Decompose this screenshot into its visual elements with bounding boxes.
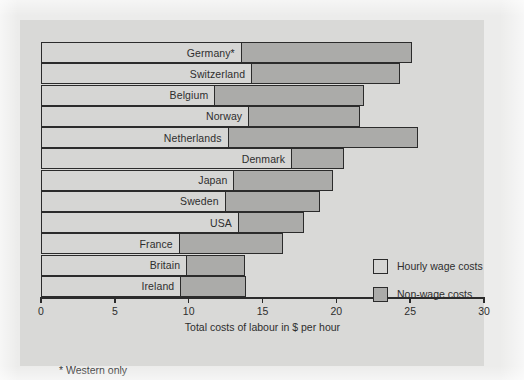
bar-segment-hourly-wage-costs: France	[41, 233, 180, 254]
x-axis-tick-label: 5	[112, 305, 118, 317]
plot-area: Germany*SwitzerlandBelgiumNorwayNetherla…	[41, 42, 484, 297]
bar-segment-non-wage-costs	[248, 106, 360, 127]
x-axis-tick	[483, 297, 485, 303]
chart-panel: Germany*SwitzerlandBelgiumNorwayNetherla…	[20, 20, 484, 366]
bar-segment-hourly-wage-costs: Denmark	[41, 148, 292, 169]
bar-row: Norway	[41, 106, 360, 127]
bar-category-label: Britain	[150, 259, 180, 271]
bar-segment-non-wage-costs	[290, 148, 343, 169]
x-axis-tick	[262, 297, 264, 303]
bar-category-label: Denmark	[242, 153, 285, 165]
bar-category-label: Sweden	[180, 195, 219, 207]
bar-segment-non-wage-costs	[178, 233, 283, 254]
x-axis-tick-label: 20	[330, 305, 342, 317]
bar-segment-non-wage-costs	[237, 212, 304, 233]
bar-segment-hourly-wage-costs: Netherlands	[41, 127, 229, 148]
bar-segment-hourly-wage-costs: Germany*	[41, 42, 242, 63]
bar-row: Germany*	[41, 42, 412, 63]
bar-row: Japan	[41, 170, 333, 191]
bar-row: Sweden	[41, 191, 320, 212]
chart-legend: Hourly wage costs Non-wage costs	[373, 255, 483, 311]
x-axis-tick	[336, 297, 338, 303]
bar-segment-hourly-wage-costs: Japan	[41, 170, 234, 191]
bar-row: France	[41, 233, 283, 254]
bar-segment-non-wage-costs	[251, 63, 400, 84]
bar-row: Denmark	[41, 148, 344, 169]
bar-segment-non-wage-costs	[224, 191, 320, 212]
bar-category-label: Belgium	[170, 89, 209, 101]
bar-segment-hourly-wage-costs: USA	[41, 212, 239, 233]
bar-segment-hourly-wage-costs: Sweden	[41, 191, 226, 212]
bar-segment-hourly-wage-costs: Switzerland	[41, 63, 252, 84]
bar-segment-non-wage-costs	[186, 255, 245, 276]
x-axis-tick	[114, 297, 116, 303]
bar-segment-hourly-wage-costs: Britain	[41, 255, 187, 276]
x-axis-tick-label: 15	[257, 305, 269, 317]
legend-item-hourly-wage-costs: Hourly wage costs	[373, 255, 483, 277]
bar-category-label: Netherlands	[164, 132, 222, 144]
bar-category-label: France	[140, 238, 173, 250]
legend-label-non-wage-costs: Non-wage costs	[397, 288, 472, 300]
bar-category-label: Japan	[198, 174, 227, 186]
legend-swatch-non-wage-costs	[373, 287, 388, 302]
bar-segment-hourly-wage-costs: Belgium	[41, 85, 215, 106]
x-axis-tick	[40, 297, 42, 303]
x-axis-tick-label: 10	[183, 305, 195, 317]
bar-segment-non-wage-costs	[214, 85, 365, 106]
legend-item-non-wage-costs: Non-wage costs	[373, 283, 483, 305]
bar-segment-non-wage-costs	[233, 170, 334, 191]
bar-category-label: Switzerland	[190, 68, 245, 80]
bar-row: Switzerland	[41, 63, 400, 84]
bar-category-label: Germany*	[187, 47, 235, 59]
bar-row: USA	[41, 212, 304, 233]
x-axis-tick	[188, 297, 190, 303]
bar-segment-hourly-wage-costs: Norway	[41, 106, 249, 127]
bar-row: Belgium	[41, 85, 364, 106]
bar-category-label: Norway	[206, 110, 242, 122]
legend-label-hourly-wage-costs: Hourly wage costs	[397, 260, 483, 272]
legend-swatch-hourly-wage-costs	[373, 259, 388, 274]
bar-row: Netherlands	[41, 127, 418, 148]
bar-category-label: USA	[210, 217, 232, 229]
bar-row: Britain	[41, 255, 245, 276]
bar-segment-non-wage-costs	[180, 276, 247, 297]
bar-category-label: Ireland	[141, 280, 174, 292]
bar-segment-non-wage-costs	[227, 127, 418, 148]
x-axis-tick-label: 0	[38, 305, 44, 317]
x-axis-title: Total costs of labour in $ per hour	[41, 321, 484, 333]
footnote: * Western only	[59, 364, 127, 376]
bar-segment-non-wage-costs	[240, 42, 411, 63]
bar-row: Ireland	[41, 276, 246, 297]
figure-page: Germany*SwitzerlandBelgiumNorwayNetherla…	[0, 0, 524, 380]
bar-segment-hourly-wage-costs: Ireland	[41, 276, 181, 297]
